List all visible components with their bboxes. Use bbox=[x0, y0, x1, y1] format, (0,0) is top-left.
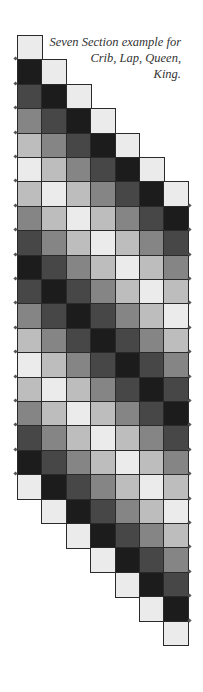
quilt-cell bbox=[17, 401, 43, 427]
quilt-cell bbox=[66, 474, 92, 500]
quilt-cell bbox=[115, 206, 141, 232]
quilt-cell bbox=[163, 474, 189, 500]
quilt-cell bbox=[90, 523, 116, 549]
quilt-cell bbox=[90, 474, 116, 500]
row-tick-mark bbox=[188, 496, 192, 500]
quilt-cell bbox=[90, 108, 116, 134]
quilt-cell bbox=[66, 425, 92, 451]
quilt-cell bbox=[139, 206, 165, 232]
quilt-cell bbox=[90, 547, 116, 573]
quilt-cell bbox=[41, 133, 67, 159]
quilt-cell bbox=[41, 425, 67, 451]
quilt-cell bbox=[115, 328, 141, 354]
quilt-cell bbox=[41, 328, 67, 354]
quilt-cell bbox=[139, 401, 165, 427]
quilt-cell bbox=[139, 474, 165, 500]
row-tick-mark bbox=[188, 472, 192, 476]
row-tick-mark bbox=[188, 545, 192, 549]
quilt-cell bbox=[115, 425, 141, 451]
quilt-cell bbox=[17, 352, 43, 378]
quilt-cell bbox=[41, 84, 67, 110]
quilt-cell bbox=[115, 303, 141, 329]
quilt-cell bbox=[17, 35, 43, 61]
quilt-cell bbox=[115, 181, 141, 207]
quilt-cell bbox=[66, 206, 92, 232]
quilt-cell bbox=[66, 255, 92, 281]
quilt-cell bbox=[90, 328, 116, 354]
quilt-cell bbox=[41, 401, 67, 427]
quilt-cell bbox=[17, 303, 43, 329]
quilt-cell bbox=[139, 230, 165, 256]
row-tick-mark bbox=[188, 423, 192, 427]
row-tick-mark bbox=[188, 374, 192, 378]
row-tick-mark bbox=[188, 203, 192, 207]
quilt-cell bbox=[66, 401, 92, 427]
quilt-cell bbox=[163, 230, 189, 256]
quilt-cell bbox=[17, 377, 43, 403]
quilt-cell bbox=[90, 181, 116, 207]
quilt-cell bbox=[17, 59, 43, 85]
quilt-cell bbox=[17, 279, 43, 305]
quilt-cell bbox=[90, 401, 116, 427]
quilt-cell bbox=[163, 255, 189, 281]
quilt-cell bbox=[115, 523, 141, 549]
quilt-cell bbox=[139, 303, 165, 329]
seven-section-quilt-diagram bbox=[0, 0, 203, 692]
row-tick-mark bbox=[188, 325, 192, 329]
quilt-cell bbox=[163, 523, 189, 549]
quilt-cell bbox=[90, 499, 116, 525]
quilt-cell bbox=[139, 377, 165, 403]
quilt-cell bbox=[66, 230, 92, 256]
quilt-cell bbox=[41, 255, 67, 281]
quilt-cell bbox=[115, 450, 141, 476]
quilt-cell bbox=[139, 596, 165, 622]
quilt-cell bbox=[90, 279, 116, 305]
quilt-cell bbox=[115, 377, 141, 403]
quilt-cell bbox=[139, 523, 165, 549]
quilt-cell bbox=[41, 206, 67, 232]
row-tick-mark bbox=[188, 447, 192, 451]
row-tick-mark bbox=[188, 276, 192, 280]
quilt-cell bbox=[66, 181, 92, 207]
quilt-cell bbox=[163, 206, 189, 232]
quilt-cell bbox=[163, 547, 189, 573]
quilt-cell bbox=[90, 255, 116, 281]
quilt-cell bbox=[17, 157, 43, 183]
quilt-cell bbox=[66, 303, 92, 329]
quilt-cell bbox=[139, 425, 165, 451]
quilt-cell bbox=[163, 425, 189, 451]
quilt-cell bbox=[115, 401, 141, 427]
quilt-cell bbox=[115, 352, 141, 378]
quilt-cell bbox=[41, 279, 67, 305]
quilt-cell bbox=[163, 621, 189, 647]
quilt-cell bbox=[163, 450, 189, 476]
quilt-cell bbox=[17, 474, 43, 500]
quilt-cell bbox=[17, 450, 43, 476]
quilt-cell bbox=[139, 547, 165, 573]
quilt-cell bbox=[90, 425, 116, 451]
quilt-cell bbox=[41, 499, 67, 525]
quilt-cell bbox=[163, 328, 189, 354]
quilt-cell bbox=[115, 499, 141, 525]
quilt-cell bbox=[139, 181, 165, 207]
quilt-cell bbox=[66, 450, 92, 476]
quilt-cell bbox=[115, 133, 141, 159]
quilt-cell bbox=[41, 303, 67, 329]
quilt-cell bbox=[41, 352, 67, 378]
quilt-cell bbox=[17, 230, 43, 256]
quilt-cell bbox=[115, 547, 141, 573]
quilt-cell bbox=[17, 255, 43, 281]
quilt-cell bbox=[66, 328, 92, 354]
quilt-cell bbox=[163, 596, 189, 622]
quilt-cell bbox=[17, 328, 43, 354]
quilt-cell bbox=[115, 279, 141, 305]
quilt-cell bbox=[66, 523, 92, 549]
row-tick-mark bbox=[188, 569, 192, 573]
quilt-cell bbox=[41, 230, 67, 256]
quilt-cell bbox=[66, 157, 92, 183]
quilt-cell bbox=[90, 206, 116, 232]
quilt-cell bbox=[90, 230, 116, 256]
quilt-cell bbox=[139, 157, 165, 183]
quilt-cell bbox=[139, 450, 165, 476]
row-tick-mark bbox=[188, 618, 192, 622]
